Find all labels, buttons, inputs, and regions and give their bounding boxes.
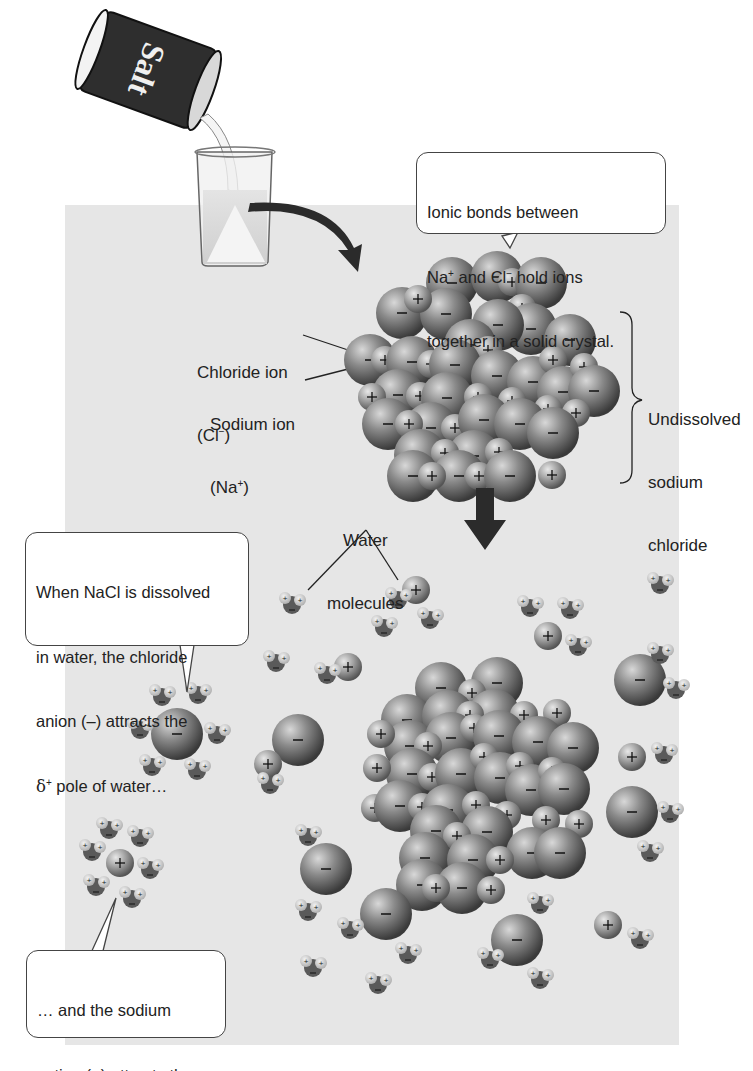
label-undissolved-nacl: Undissolved sodium chloride (648, 367, 741, 577)
hydrated-sodium-ion (79, 817, 164, 908)
label-text: Undissolved (648, 409, 741, 430)
callout-sodium-attraction: … and the sodium cation (+) attracts the… (26, 950, 226, 1038)
label-text: ) (243, 478, 249, 497)
callout-text: cation (+) attracts the (37, 1065, 215, 1071)
callout-text: and Cl (454, 268, 506, 286)
label-text: molecules (327, 593, 404, 614)
label-water-molecules: Water molecules (327, 488, 404, 635)
callout-text: Ionic bonds between (427, 203, 578, 221)
callout-text: … and the sodium (37, 1000, 215, 1022)
callout-text: Na (427, 268, 448, 286)
label-text: Water (327, 530, 404, 551)
label-text: chloride (648, 535, 741, 556)
delta-symbol: δ (36, 777, 46, 796)
callout-text: together in a solid crystal. (427, 332, 614, 350)
callout-text: pole of water… (52, 777, 168, 795)
callout-ionic-bonds: Ionic bonds between Na+ and Cl− hold ion… (416, 152, 666, 234)
label-text: sodium (648, 472, 741, 493)
label-text: Sodium ion (210, 414, 295, 435)
callout-text: hold ions (512, 268, 583, 286)
label-text: (Na (210, 478, 237, 497)
callout-chloride-attraction: When NaCl is dissolved in water, the chl… (25, 532, 249, 646)
callout-text: When NaCl is dissolved (36, 582, 238, 604)
callout-text: anion (–) attracts the (36, 711, 238, 733)
salt-can-icon: Salt (70, 7, 227, 133)
nacl-crystal-dissolving (361, 657, 599, 914)
callout-text: in water, the chloride (36, 647, 238, 669)
label-sodium-ion: Sodium ion (Na+) (210, 372, 295, 519)
